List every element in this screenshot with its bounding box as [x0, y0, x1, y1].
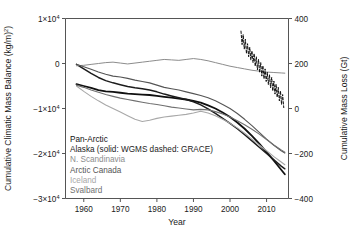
y2-axis-title: Cumulative Mass Loss (Gt) [339, 57, 349, 161]
y-axis-title: Cumulative Climatic Mass Balance (kg/m)2… [3, 26, 13, 191]
legend-item-label: N. Scandinavia [70, 155, 126, 164]
legend-item-label: Pan-Arctic [70, 135, 108, 144]
y2-axis-tick-label: 0 [295, 105, 300, 114]
x-axis-tick-label: 2000 [221, 205, 240, 214]
y-axis-tick-label: 1×104 [38, 14, 60, 24]
y2-axis-tick-label: −200 [295, 150, 314, 159]
y-axis-tick-label: −1×104 [33, 104, 59, 114]
x-axis-tick-label: 1990 [184, 205, 203, 214]
x-axis-tick-label: 1980 [148, 205, 167, 214]
chart-svg: 1×1040−1×104−2×104−3×1044002000−200−4001… [0, 0, 357, 239]
x-axis-title: Year [168, 217, 186, 227]
y-axis-tick-label: −3×104 [33, 194, 59, 204]
legend-item-label: Svalbard [70, 186, 103, 195]
legend-item-label: Alaska (solid: WGMS dashed: GRACE) [70, 145, 213, 154]
x-axis-tick-label: 2010 [257, 205, 276, 214]
y2-axis-tick-label: 200 [295, 60, 309, 69]
y2-axis-tick-label: 400 [295, 15, 309, 24]
legend-item-label: Iceland [70, 176, 97, 185]
y-axis-tick-label: −2×104 [33, 149, 59, 159]
figure-container: 1×1040−1×104−2×104−3×1044002000−200−4001… [0, 0, 357, 239]
y2-axis-tick-label: −400 [295, 195, 314, 204]
legend-item-label: Arctic Canada [70, 166, 122, 175]
x-axis-tick-label: 1970 [111, 205, 130, 214]
x-axis-tick-label: 1960 [75, 205, 94, 214]
y-axis-tick-label: 0 [55, 60, 60, 69]
